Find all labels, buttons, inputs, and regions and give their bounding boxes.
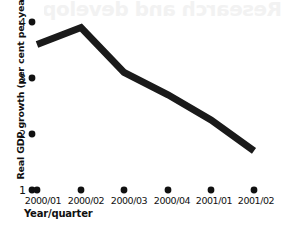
chart-figure: Research and development Real GDP growth… <box>0 0 282 227</box>
y-axis-tick-dots <box>29 19 36 194</box>
data-series-line <box>37 28 254 151</box>
x-tick-label-1: 2000/02 <box>62 195 110 207</box>
x-tick-label-0: 2000/01 <box>19 195 67 207</box>
plot-area <box>0 0 282 227</box>
x-tick-label-2: 2000/03 <box>105 195 153 207</box>
x-tick-label-3: 2000/04 <box>148 195 196 207</box>
x-axis-title: Year/quarter <box>24 208 93 219</box>
x-tick-label-4: 2001/01 <box>190 195 238 207</box>
x-tick-label-5: 2001/02 <box>232 195 280 207</box>
x-axis-tick-dots <box>34 187 258 194</box>
x-axis-tick-labels: 2000/01 2000/02 2000/03 2000/04 2001/01 … <box>0 195 282 209</box>
